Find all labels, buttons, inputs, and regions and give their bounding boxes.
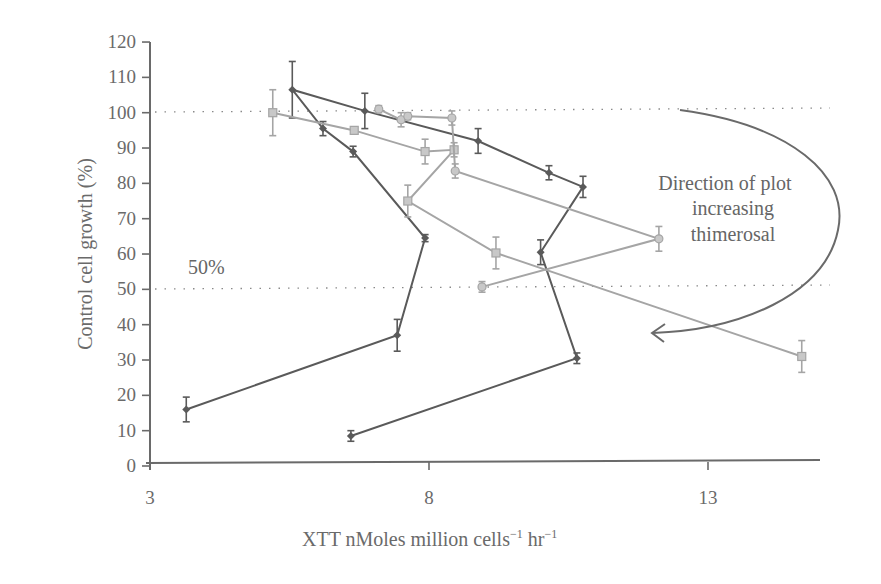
curved-arrow-icon xyxy=(653,110,840,333)
x-tick-label: 3 xyxy=(145,487,155,508)
data-point-marker xyxy=(478,283,486,291)
data-point-marker xyxy=(361,107,369,115)
y-tick-label: 110 xyxy=(108,66,136,87)
x-axis-title-main: XTT nMoles million cells xyxy=(302,528,510,550)
x-axis-title: XTT nMoles million cells−1 hr−1 xyxy=(302,527,557,550)
x-tick-label: 13 xyxy=(699,487,718,508)
data-point-marker xyxy=(474,137,482,145)
x-axis-title-hr: hr xyxy=(523,528,545,550)
data-point-marker xyxy=(269,109,277,117)
series-layer xyxy=(182,61,805,441)
y-axis-title: Control cell growth (%) xyxy=(74,158,97,350)
data-point-marker xyxy=(798,352,806,360)
y-tick-label: 80 xyxy=(117,172,136,193)
direction-annotation: Direction of plot increasing thimerosal xyxy=(652,110,840,342)
data-point-marker xyxy=(393,331,401,339)
y-tick-label: 60 xyxy=(117,243,136,264)
y-tick-label: 30 xyxy=(117,349,136,370)
y-axis: 0102030405060708090100110120 xyxy=(108,31,151,476)
y-tick-label: 120 xyxy=(108,31,137,52)
annotation-line-3: thimerosal xyxy=(691,223,776,245)
y-tick-label: 0 xyxy=(127,455,137,476)
y-tick-label: 40 xyxy=(117,314,136,335)
annotation-line-2: increasing xyxy=(692,197,774,220)
data-point-marker xyxy=(448,114,456,122)
data-point-marker xyxy=(182,405,190,413)
y-tick-label: 50 xyxy=(117,278,136,299)
data-point-marker xyxy=(573,354,581,362)
x-axis-title-sup1: −1 xyxy=(510,527,523,541)
x-ticks: 3813 xyxy=(145,462,717,508)
y-tick-label: 90 xyxy=(117,137,136,158)
x-tick-label: 8 xyxy=(424,487,434,508)
data-point-marker xyxy=(350,126,358,134)
series-0 xyxy=(182,61,587,441)
x-axis-title-sup2: −1 xyxy=(544,527,557,541)
y-ticks: 0102030405060708090100110120 xyxy=(108,31,151,476)
data-point-marker xyxy=(375,105,383,113)
y-tick-label: 70 xyxy=(117,208,136,229)
annotation-line-1: Direction of plot xyxy=(658,172,792,195)
data-point-marker xyxy=(421,148,429,156)
chart: 0102030405060708090100110120 3813 50% Co… xyxy=(0,0,881,584)
data-point-marker xyxy=(347,432,355,440)
x-axis: 3813 xyxy=(145,460,820,508)
y-tick-label: 100 xyxy=(108,102,137,123)
data-point-marker xyxy=(451,167,459,175)
data-point-marker xyxy=(655,235,663,243)
reference-line-100 xyxy=(155,108,830,112)
data-point-marker xyxy=(492,249,500,257)
y-tick-label: 10 xyxy=(117,420,136,441)
data-point-marker xyxy=(404,112,412,120)
data-point-marker xyxy=(404,197,412,205)
fifty-percent-label: 50% xyxy=(188,256,225,278)
reference-line-50 xyxy=(155,285,830,289)
y-tick-label: 20 xyxy=(117,384,136,405)
data-point-marker xyxy=(545,169,553,177)
